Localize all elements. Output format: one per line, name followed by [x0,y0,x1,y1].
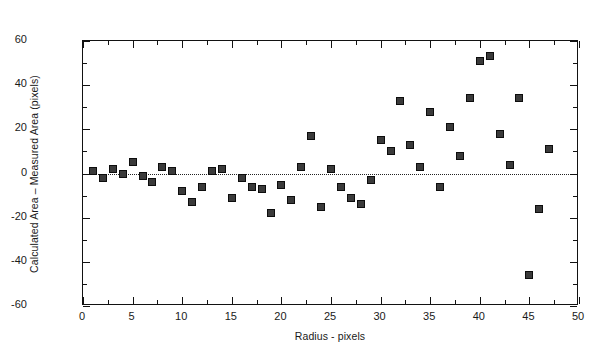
x-tick-minor-top [257,41,258,45]
y-tick-major [83,41,90,42]
x-tick-minor-top [505,41,506,45]
y-tick-label: -40 [0,254,27,266]
x-tick-major [579,297,580,304]
x-tick-label: 20 [260,310,300,322]
data-point [277,181,285,189]
y-tick-minor-right [573,151,577,152]
data-point [307,132,315,140]
data-point [436,183,444,191]
x-tick-minor-top [356,41,357,45]
data-point [148,178,156,186]
y-axis-title: Calculated Area – Measured Area (pixels) [28,54,40,294]
x-tick-minor [405,300,406,304]
x-tick-major [182,297,183,304]
x-tick-minor-top [554,41,555,45]
data-point [99,174,107,182]
data-point [287,196,295,204]
y-tick-minor-right [573,107,577,108]
y-tick-major [83,218,90,219]
data-point [387,147,395,155]
x-tick-major-top [281,41,282,48]
y-tick-major [83,129,90,130]
data-point [515,94,523,102]
x-tick-major [529,297,530,304]
x-tick-minor [505,300,506,304]
y-tick-label: -20 [0,210,27,222]
y-tick-major-right [570,129,577,130]
data-point [426,108,434,116]
y-tick-minor [83,107,87,108]
data-point [486,52,494,60]
data-point [525,271,533,279]
x-tick-major [430,297,431,304]
x-tick-minor [257,300,258,304]
x-tick-label: 50 [558,310,598,322]
x-tick-major [83,297,84,304]
x-tick-major-top [529,41,530,48]
x-tick-major-top [381,41,382,48]
data-point [208,167,216,175]
x-tick-major-top [83,41,84,48]
x-tick-label: 35 [409,310,449,322]
data-point [377,136,385,144]
data-point [476,57,484,65]
x-tick-label: 15 [211,310,251,322]
data-point [129,158,137,166]
data-point [139,172,147,180]
x-tick-major [133,297,134,304]
data-point [248,183,256,191]
y-tick-major-right [570,262,577,263]
x-tick-minor [356,300,357,304]
data-point [238,174,246,182]
x-tick-minor [157,300,158,304]
y-tick-major [83,306,90,307]
x-tick-minor-top [306,41,307,45]
x-tick-major-top [232,41,233,48]
x-tick-major-top [430,41,431,48]
plot-area [82,40,578,305]
x-tick-label: 5 [112,310,152,322]
x-tick-major [480,297,481,304]
x-tick-minor-top [405,41,406,45]
x-tick-major [331,297,332,304]
y-tick-minor [83,151,87,152]
x-tick-minor [108,300,109,304]
data-point [496,130,504,138]
y-tick-major-right [570,218,577,219]
x-tick-major-top [331,41,332,48]
x-tick-major [232,297,233,304]
data-point [506,161,514,169]
data-point [396,97,404,105]
data-point [406,141,414,149]
y-tick-label: 60 [0,33,27,45]
data-point [267,209,275,217]
data-point [327,165,335,173]
data-point [535,205,543,213]
data-point [347,194,355,202]
data-point [198,183,206,191]
x-tick-major [281,297,282,304]
x-tick-major-top [480,41,481,48]
x-tick-major [381,297,382,304]
data-point [357,200,365,208]
y-tick-label: -60 [0,298,27,310]
x-tick-label: 0 [62,310,102,322]
data-point [466,94,474,102]
y-tick-major [83,262,90,263]
data-point [188,198,196,206]
data-point [109,165,117,173]
y-tick-major-right [570,41,577,42]
x-tick-minor-top [455,41,456,45]
x-tick-label: 30 [360,310,400,322]
zero-reference-line [83,174,577,175]
x-tick-major-top [579,41,580,48]
data-point [446,123,454,131]
y-tick-major-right [570,306,577,307]
data-point [89,167,97,175]
y-tick-minor [83,284,87,285]
data-point [545,145,553,153]
y-tick-minor-right [573,196,577,197]
y-tick-major [83,85,90,86]
y-tick-minor [83,63,87,64]
x-tick-label: 45 [508,310,548,322]
